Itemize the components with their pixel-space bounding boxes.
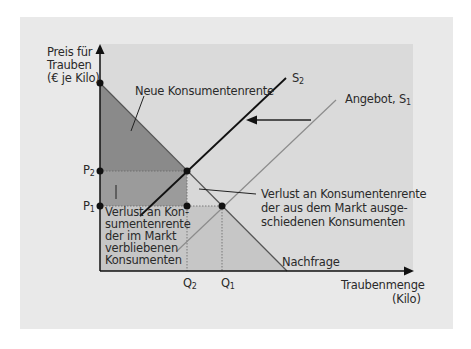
- y-axis-label-line3: (€ je Kilo): [47, 71, 100, 85]
- region-loss-remaining-consumers: [100, 171, 187, 206]
- loss-exited-line3: schiedenen Konsumenten: [261, 215, 426, 229]
- p1-dot: [97, 203, 104, 210]
- loss-exited-line1: Verlust an Konsumentenrente: [261, 187, 426, 201]
- loss-exited-label: Verlust an Konsumentenrente der aus dem …: [261, 187, 426, 229]
- y-axis-label-line2: Trauben: [47, 58, 92, 72]
- s1-label: Angebot, S1: [345, 92, 411, 110]
- new-consumer-surplus-label: Neue Konsumentenrente: [135, 84, 274, 98]
- x-axis-label-line1: Traubenmenge: [341, 278, 425, 292]
- p1-label: P1: [83, 199, 95, 217]
- demand-label: Nachfrage: [282, 255, 340, 269]
- loss-remaining-label: Verlust an Kon- sumentenrente der im Mar…: [105, 206, 191, 266]
- p2-label: P2: [83, 163, 95, 181]
- old-equilibrium-dot: [219, 203, 226, 210]
- loss-exited-line2: der aus dem Markt ausge-: [261, 201, 426, 215]
- loss-remaining-line5: Konsumenten: [105, 254, 191, 266]
- q1-label: Q1: [221, 276, 235, 294]
- q2-label: Q2: [183, 276, 197, 294]
- p2-dot: [97, 168, 104, 175]
- new-equilibrium-dot: [184, 168, 191, 175]
- x-axis-label-line2: (Kilo): [392, 292, 421, 306]
- y-axis-label-line1: Preis für: [47, 45, 92, 59]
- s2-label: S2: [292, 71, 304, 89]
